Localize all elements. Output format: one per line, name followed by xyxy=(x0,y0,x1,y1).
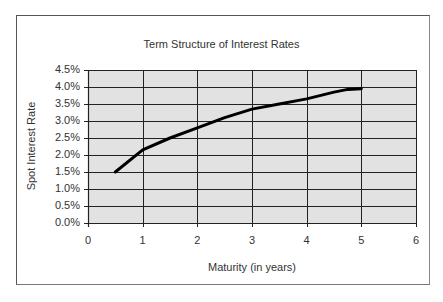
x-tick-label: 0 xyxy=(78,234,98,246)
x-tick-label: 4 xyxy=(297,234,317,246)
y-tick-label: 2.0% xyxy=(40,148,80,160)
x-tick-label: 3 xyxy=(242,234,262,246)
y-tick-label: 4.5% xyxy=(40,63,80,75)
x-tick-label: 2 xyxy=(187,234,207,246)
y-tick-label: 1.0% xyxy=(40,182,80,194)
x-tick-label: 1 xyxy=(133,234,153,246)
y-tick-label: 2.5% xyxy=(40,131,80,143)
y-tick-label: 0.5% xyxy=(40,199,80,211)
y-tick-label: 3.0% xyxy=(40,114,80,126)
y-tick-label: 4.0% xyxy=(40,80,80,92)
y-tick-label: 0.0% xyxy=(40,216,80,228)
x-tick-label: 5 xyxy=(351,234,371,246)
y-tick-label: 1.5% xyxy=(40,165,80,177)
x-tick-label: 6 xyxy=(406,234,426,246)
y-tick-label: 3.5% xyxy=(40,97,80,109)
